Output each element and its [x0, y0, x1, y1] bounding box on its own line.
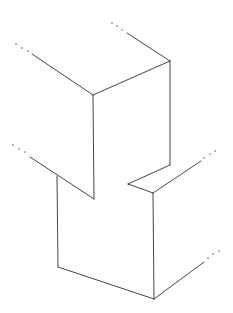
notch-right-lower [128, 184, 153, 193]
continuation-dot [218, 250, 220, 252]
continuation-dot [111, 22, 113, 24]
upper-left-vertical [93, 95, 94, 199]
dots-mid-left [12, 144, 26, 153]
continuation-dot [27, 50, 29, 52]
continuation-dot [12, 144, 14, 146]
bottom-right-edge [154, 262, 204, 299]
continuation-dot [207, 257, 209, 259]
continuation-dot [116, 25, 118, 27]
continuation-dots-group [12, 22, 220, 259]
continuation-dot [21, 47, 23, 49]
top-left-edge [32, 54, 93, 95]
lower-left-vertical [57, 176, 58, 267]
dots-mid-right [203, 150, 216, 159]
continuation-dot [212, 253, 214, 255]
notch-right-upper [128, 165, 170, 184]
continuation-dot [18, 148, 20, 150]
continuation-dot [209, 153, 211, 155]
dots-top-left [15, 43, 29, 52]
continuation-dot [214, 150, 216, 152]
isometric-joint-drawing [0, 0, 233, 313]
notch-left-diagonal [30, 157, 94, 199]
continuation-dot [15, 43, 17, 45]
mid-right-edge [153, 161, 201, 193]
diagram-canvas [0, 0, 233, 313]
continuation-dot [24, 151, 26, 153]
top-front-edge [93, 61, 170, 95]
edge-group [30, 33, 204, 299]
continuation-dot [121, 29, 123, 31]
bottom-front-edge [58, 267, 154, 299]
dots-top-right [111, 22, 123, 31]
dots-bottom-right [207, 250, 220, 259]
top-right-edge [127, 33, 170, 61]
continuation-dot [203, 157, 205, 159]
lower-right-vertical [153, 193, 154, 299]
